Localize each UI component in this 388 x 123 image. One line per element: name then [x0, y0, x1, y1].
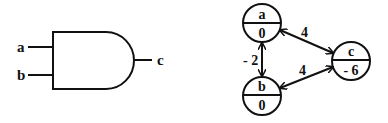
edge-b-c-weight: 4	[299, 63, 306, 78]
node-c-name: c	[348, 44, 354, 59]
input-b-label: b	[17, 67, 25, 83]
edge-b-c	[280, 67, 333, 88]
node-a-value: 0	[259, 26, 266, 41]
diagram-canvas: a b c - 2 4 4 a 0 b 0 c - 6	[0, 0, 388, 123]
node-b: b 0	[243, 77, 281, 115]
and-gate-body	[53, 32, 134, 89]
edge-a-c-weight: 4	[301, 25, 308, 40]
edge-a-b-weight: - 2	[243, 53, 258, 68]
and-gate: a b c	[17, 32, 164, 89]
node-a-name: a	[259, 7, 266, 22]
node-b-value: 0	[259, 98, 266, 113]
output-c-label: c	[157, 52, 164, 68]
input-a-label: a	[17, 39, 25, 55]
node-a: a 0	[243, 4, 281, 42]
node-b-name: b	[258, 79, 266, 94]
node-c-value: - 6	[343, 63, 358, 78]
node-c: c - 6	[332, 42, 370, 80]
